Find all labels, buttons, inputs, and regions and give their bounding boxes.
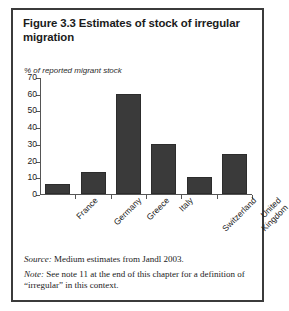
- x-label-line: Germany: [112, 196, 143, 227]
- y-tick-label: 10: [28, 172, 37, 182]
- bar-italy: [151, 144, 176, 194]
- x-label-greece: Greece: [145, 196, 171, 222]
- x-label-line: Switzerland: [221, 196, 259, 234]
- source-text: Medium estimates from Jandl 2003.: [52, 254, 184, 264]
- note-text: See note 11 at the end of this chapter f…: [24, 269, 245, 291]
- figure-title: Figure 3.3 Estimates of stock of irregul…: [23, 16, 251, 44]
- x-label-line: Italy: [177, 196, 195, 214]
- y-tick-label: 20: [28, 156, 37, 166]
- y-tick-label: 70: [28, 72, 37, 82]
- y-axis-line: [40, 78, 41, 195]
- bar-switzerland: [187, 177, 212, 194]
- note-label: Note:: [24, 269, 44, 279]
- x-label-line: France: [74, 196, 99, 221]
- y-tick-label: 50: [28, 105, 37, 115]
- y-tick-label: 30: [28, 139, 37, 149]
- x-axis-labels: FranceGermanyGreeceItalySwitzerlandUnite…: [40, 196, 252, 244]
- x-label-switzerland: Switzerland: [221, 196, 259, 234]
- bar-united-kingdom: [222, 154, 247, 194]
- x-label-france: France: [74, 196, 99, 221]
- y-tick-label: 0: [32, 189, 37, 199]
- x-label-italy: Italy: [177, 196, 195, 214]
- y-axis-subtitle: % of reported migrant stock: [24, 66, 122, 75]
- figure-footnotes: Source: Medium estimates from Jandl 2003…: [24, 254, 254, 295]
- bar-germany: [81, 172, 106, 194]
- x-label-germany: Germany: [112, 196, 143, 227]
- bar-greece: [116, 94, 141, 194]
- y-tick-label: 40: [28, 122, 37, 132]
- source-line: Source: Medium estimates from Jandl 2003…: [24, 254, 254, 266]
- y-tick-label: 60: [28, 89, 37, 99]
- note-line: Note: See note 11 at the end of this cha…: [24, 269, 254, 292]
- x-label-line: Greece: [145, 196, 171, 222]
- source-label: Source:: [24, 254, 52, 264]
- figure-container: Figure 3.3 Estimates of stock of irregul…: [11, 8, 264, 302]
- bar-france: [45, 184, 70, 194]
- chart-plot-area: 010203040506070: [40, 78, 252, 195]
